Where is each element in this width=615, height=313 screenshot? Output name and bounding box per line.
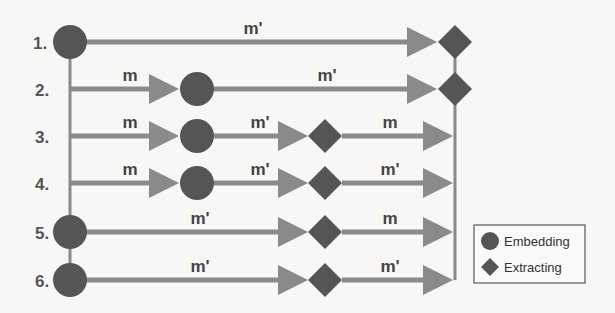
segment-label: m' xyxy=(250,160,269,179)
embedding-node-icon xyxy=(53,263,87,297)
segment-label: m' xyxy=(190,257,209,276)
embedding-node-icon xyxy=(53,215,87,249)
extracting-node-icon xyxy=(308,263,342,297)
segment-label: m' xyxy=(380,160,399,179)
embedding-node-icon xyxy=(180,166,214,200)
row-label: 3. xyxy=(35,128,49,147)
scenario-row-5: 5. m' m xyxy=(35,209,448,249)
segment-label: m xyxy=(122,160,137,179)
watermark-scenarios-diagram: 1. m' 2. m m' 3. m m' m 4. m m' m' xyxy=(0,0,615,313)
segment-label: m' xyxy=(190,209,209,228)
embedding-legend-icon xyxy=(481,232,499,250)
segment-label: m xyxy=(122,113,137,132)
segment-label: m xyxy=(122,66,137,85)
legend-label-embedding: Embedding xyxy=(504,234,570,249)
row-label: 2. xyxy=(35,81,49,100)
row-label: 4. xyxy=(35,175,49,194)
extracting-node-icon xyxy=(438,25,472,59)
embedding-node-icon xyxy=(53,25,87,59)
row-label: 1. xyxy=(33,34,47,53)
legend-label-extracting: Extracting xyxy=(504,260,562,275)
segment-label: m xyxy=(382,209,397,228)
scenario-row-3: 3. m m' m xyxy=(35,113,448,153)
segment-label: m' xyxy=(380,257,399,276)
embedding-node-icon xyxy=(180,119,214,153)
extracting-node-icon xyxy=(438,72,472,106)
extracting-node-icon xyxy=(308,215,342,249)
scenario-row-2: 2. m m' xyxy=(35,66,472,106)
extracting-node-icon xyxy=(308,166,342,200)
legend: Embedding Extracting xyxy=(474,225,585,283)
row-label: 5. xyxy=(35,224,49,243)
row-label: 6. xyxy=(35,272,49,291)
scenario-row-1: 1. m' xyxy=(33,19,472,59)
embedding-node-icon xyxy=(180,72,214,106)
scenario-row-4: 4. m m' m' xyxy=(35,160,448,200)
segment-label: m' xyxy=(317,66,336,85)
scenario-row-6: 6. m' m' xyxy=(35,257,448,297)
segment-label: m' xyxy=(243,19,262,38)
segment-label: m' xyxy=(250,113,269,132)
segment-label: m xyxy=(382,113,397,132)
extracting-node-icon xyxy=(308,119,342,153)
